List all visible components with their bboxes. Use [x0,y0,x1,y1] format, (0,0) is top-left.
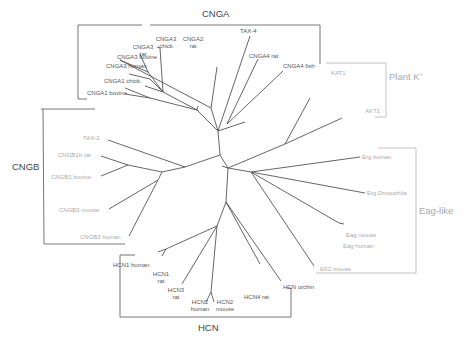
leaf-cnga4-rat: CNGA4 rat [249,53,278,60]
leaf-tax4: TAX-4 [240,28,257,35]
group-brackets [41,25,416,317]
leaf-cnga3-human: CNGA3 human [106,63,147,70]
leaf-erg-drosophila: Erg Drosophila [367,190,407,197]
leaf-cngb3-mouse: CNGB3 mouse [59,207,99,214]
leaf-cnga2-rat: CNGA2rat [181,36,205,50]
leaf-cnga1-bovine: CNGA1 bovine [87,90,127,97]
leaf-eag-human: Eag human [343,243,374,250]
leaf-ek2-mouse: EK2 mouse [320,266,351,273]
tree-branches [0,0,467,341]
group-label-cngb: CNGB [12,161,39,172]
leaf-cngb1-bovine: CNGB1 bovine [51,174,91,181]
leaf-tax2: TAX-2 [83,135,100,142]
leaf-kat1: KAT1 [331,70,346,77]
phylogenetic-tree-diagram: CNGA CNGB HCN Plant K+ Eag-like CNGA3 bo… [0,0,467,341]
leaf-akt1: AKT1 [365,108,380,115]
leaf-cnga4-fish: CNGA4 fish [283,63,315,70]
group-label-cnga: CNGA [202,8,229,19]
leaf-hcn2-mouse: HCN2mouse [213,299,237,313]
leaf-erg-human: Erg human [362,154,391,161]
group-label-hcn: HCN [198,322,219,333]
leaf-hcn-urchin: HCN urchin [283,284,314,291]
leaf-hcn2-human: HCN2human [188,299,212,313]
leaf-hcn1-human: HCN1 human [113,262,149,269]
leaf-hcn4-rat: HCN4 rat [244,294,269,301]
leaf-cngb1b-rat: CNGB1b rat [58,152,91,159]
leaf-hcn1-rat: HCN1rat [150,271,172,285]
leaf-cnga1-chick: CNGA1 chick [104,78,140,85]
leaf-hcn3-rat: HCN3rat [165,287,187,301]
eag-like-bracket [316,148,416,273]
leaf-cngb3-human: CNGB3 human [80,234,121,241]
leaf-eag-mouse: Eag mouse [346,232,376,239]
group-label-eag-like: Eag-like [419,205,453,216]
group-label-plant-k: Plant K+ [389,71,423,82]
cnga-bracket [78,25,87,99]
leaf-cnga3-rat: CNGA3rat [131,44,155,58]
leaf-cnga3-chick: CNGA3chick [154,36,178,50]
